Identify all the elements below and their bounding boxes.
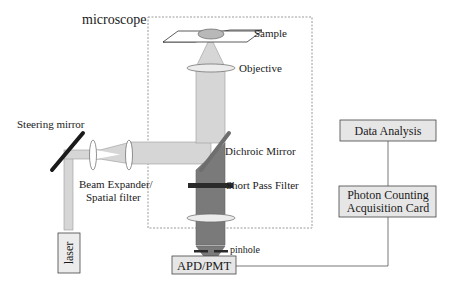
objective-cone xyxy=(196,40,225,67)
dichroic-mirror-label: Dichroic Mirror xyxy=(225,145,296,157)
beam-expander-label-line2: Spatial filter xyxy=(86,191,141,203)
short-pass-filter-label: Short Pass Filter xyxy=(226,179,299,191)
objective-lens xyxy=(187,64,235,72)
microscope-enclosure xyxy=(148,17,312,228)
steering-mirror-label: Steering mirror xyxy=(17,118,85,130)
objective-label: Objective xyxy=(239,62,282,74)
sample-droplet xyxy=(198,29,224,39)
acquisition-label-line2: Acquisition Card xyxy=(347,201,429,215)
beam-expander-label-line1: Beam Expander/ xyxy=(79,178,154,190)
beam-expander-lens-2 xyxy=(126,140,133,170)
pinhole-label: pinhole xyxy=(230,244,261,255)
confocal-diagram: laser APD/PMT Data Analysis Photon Count… xyxy=(0,0,452,286)
laser-beam-vertical xyxy=(64,158,73,230)
laser-label: laser xyxy=(62,242,76,265)
excitation-beam-up xyxy=(196,67,225,143)
acquisition-label-line1: Photon Counting xyxy=(347,188,429,202)
sample-label: Sample xyxy=(254,27,287,39)
beam-expander-lens-1 xyxy=(90,140,97,170)
pinhole-right xyxy=(214,250,228,253)
microscope-title: microscope xyxy=(82,12,147,27)
tube-lens xyxy=(187,214,235,222)
expanded-beam xyxy=(131,142,211,164)
detector-label: APD/PMT xyxy=(177,259,232,273)
data-analysis-label: Data Analysis xyxy=(355,124,422,138)
pinhole-left xyxy=(194,250,208,253)
